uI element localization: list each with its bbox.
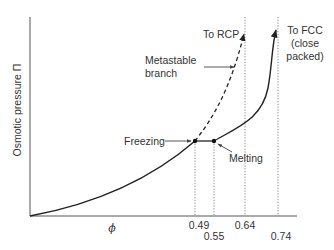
metastable-branch-curve (195, 34, 244, 141)
freezing-label: Freezing (124, 135, 165, 147)
y-axis-label: Osmotic pressure Π (11, 64, 23, 157)
to-fcc-label-line3: packed) (286, 50, 323, 62)
freezing-point (193, 139, 197, 143)
to-rcp-label: To RCP (203, 28, 239, 40)
melting-point (212, 139, 216, 143)
melting-label: Melting (229, 152, 263, 164)
metastable-label-line1: Metastable (145, 54, 197, 66)
to-fcc-label-line1: To FCC (287, 24, 323, 36)
melting-arrow (218, 144, 232, 152)
to-fcc-label-line2: (close (291, 37, 319, 49)
metastable-label-line2: branch (145, 67, 177, 79)
tick-0-74: 0.74 (271, 230, 292, 242)
tick-0-64: 0.64 (235, 219, 256, 231)
x-axis-label: ϕ (108, 222, 116, 235)
phase-diagram: Osmotic pressure Π ϕ 0.49 0.64 0.55 0.74… (0, 0, 334, 250)
fluid-branch-curve (30, 141, 195, 216)
tick-0-55: 0.55 (204, 230, 225, 242)
